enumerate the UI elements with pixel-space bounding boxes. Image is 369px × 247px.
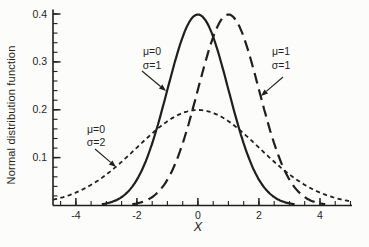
- callout-mu1-sigma1-text: σ=1: [272, 59, 291, 71]
- annotation-group: μ=0σ=1μ=1σ=1μ=0σ=2: [87, 45, 291, 167]
- x-tick-label: 4: [317, 209, 323, 221]
- callout-mu0-sigma1-arrow-line: [142, 71, 161, 87]
- x-tick-label: -2: [132, 209, 141, 221]
- curve-group: [53, 15, 352, 205]
- callout-mu0-sigma2-arrow-line: [95, 149, 111, 162]
- curve-normal-mu0-sigma1: [102, 15, 295, 205]
- callout-mu0-sigma2-text: σ=2: [87, 136, 106, 148]
- y-tick-label: 0.3: [32, 55, 47, 67]
- callout-mu0-sigma2-text: μ=0: [87, 123, 105, 135]
- y-tick-label: 0.1: [32, 151, 47, 163]
- callout-mu0-sigma1-text: μ=0: [143, 45, 161, 57]
- normal-distribution-chart: 0.10.20.30.4 -4-2024 μ=0σ=1μ=1σ=1μ=0σ=2 …: [0, 0, 369, 247]
- y-tick-label: 0.2: [32, 103, 47, 115]
- x-tick-label: 2: [256, 209, 262, 221]
- axes: [53, 10, 352, 206]
- x-axis-label: X: [193, 220, 203, 234]
- y-tick-group: 0.10.20.30.4: [32, 8, 60, 196]
- y-axis-label: Normal distribution function: [5, 46, 17, 185]
- x-tick-label: -4: [71, 209, 80, 221]
- y-tick-label: 0.4: [32, 8, 47, 20]
- x-tick-group: -4-2024: [61, 198, 351, 221]
- figure: 0.10.20.30.4 -4-2024 μ=0σ=1μ=1σ=1μ=0σ=2 …: [0, 0, 369, 247]
- callout-mu1-sigma1-text: μ=1: [272, 45, 290, 57]
- callout-mu0-sigma1-text: σ=1: [143, 59, 162, 71]
- callout-mu1-sigma1-arrow-line: [266, 77, 283, 91]
